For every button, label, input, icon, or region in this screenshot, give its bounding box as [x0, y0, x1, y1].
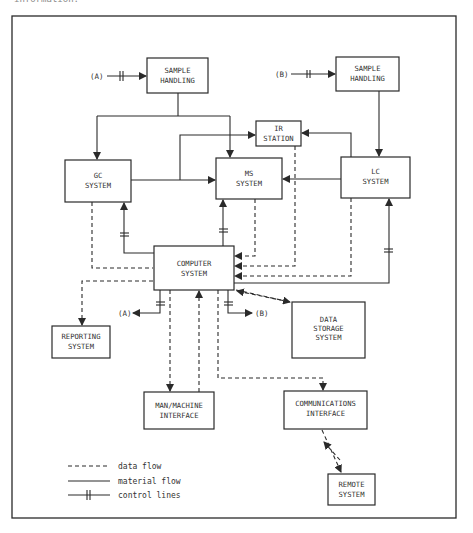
input-a-label: (A)	[90, 72, 104, 81]
ir-station-label: IR	[274, 124, 283, 133]
output-a-label: (A)	[118, 309, 132, 318]
lc-system-box: LC SYSTEM	[341, 157, 410, 198]
output-b-label: (B)	[255, 309, 269, 318]
communications-interface-label: COMMUNICATIONS	[295, 399, 356, 408]
man-machine-interface-box: MAN/MACHINE INTERFACE	[144, 392, 214, 429]
computer-system-box: COMPUTER SYSTEM	[154, 246, 234, 290]
sample-handling-b-label: SAMPLE	[355, 64, 381, 73]
reporting-system-label: REPORTING	[62, 332, 101, 341]
lc-system-label-2: SYSTEM	[363, 177, 390, 186]
man-machine-label: MAN/MACHINE	[155, 401, 203, 410]
legend: data flow material flow control lines	[68, 462, 181, 500]
gc-system-label: GC	[94, 171, 103, 180]
data-storage-label-3: SYSTEM	[316, 333, 343, 342]
communications-interface-box: COMMUNICATIONS INTERFACE	[284, 391, 367, 429]
sample-handling-b-label-2: HANDLING	[350, 74, 385, 83]
gc-system-box: GC SYSTEM	[65, 160, 131, 202]
gc-system-label-2: SYSTEM	[85, 181, 112, 190]
legend-material-flow-label: material flow	[118, 477, 181, 486]
ir-station-label-2: STATION	[263, 134, 293, 143]
flow-diagram: SAMPLE HANDLING SAMPLE HANDLING IR STATI…	[0, 0, 473, 533]
sample-handling-b-box: SAMPLE HANDLING	[336, 57, 399, 91]
remote-system-label-2: SYSTEM	[339, 490, 366, 499]
data-storage-label: DATA	[320, 315, 338, 324]
reporting-system-label-2: SYSTEM	[68, 342, 95, 351]
sample-handling-a-label-2: HANDLING	[160, 76, 195, 85]
remote-system-box: REMOTE SYSTEM	[328, 474, 375, 505]
computer-system-label: COMPUTER	[177, 259, 212, 268]
computer-system-label-2: SYSTEM	[181, 269, 208, 278]
communications-interface-label-2: INTERFACE	[306, 409, 345, 418]
lc-system-label: LC	[371, 167, 380, 176]
ir-station-box: IR STATION	[256, 121, 301, 146]
ms-system-label: MS	[245, 169, 254, 178]
sample-handling-a-label: SAMPLE	[165, 66, 191, 75]
reporting-system-box: REPORTING SYSTEM	[52, 326, 110, 358]
legend-control-lines-label: control lines	[118, 491, 181, 500]
ms-system-label-2: SYSTEM	[236, 179, 263, 188]
sample-handling-a-box: SAMPLE HANDLING	[147, 58, 208, 93]
input-b-label: (B)	[275, 70, 289, 79]
man-machine-label-2: INTERFACE	[160, 411, 199, 420]
legend-data-flow-label: data flow	[118, 462, 162, 471]
ms-system-box: MS SYSTEM	[216, 158, 282, 199]
data-storage-label-2: STORAGE	[313, 324, 343, 333]
data-storage-system-box: DATA STORAGE SYSTEM	[292, 302, 365, 358]
remote-system-label: REMOTE	[339, 480, 365, 489]
